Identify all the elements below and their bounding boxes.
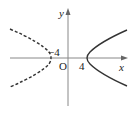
x-axis-label: x [118,61,124,73]
left-vertex-label: −4 [48,46,60,58]
y-axis-label: y [58,7,64,19]
x-axis-arrow-icon [121,56,128,61]
x-axis [10,56,128,61]
origin-label: O [59,60,67,72]
hyperbola-diagram: y x O −4 4 [0,0,137,114]
y-axis [66,8,71,106]
y-axis-arrow-icon [66,8,71,15]
right-vertex-label: 4 [79,60,85,72]
